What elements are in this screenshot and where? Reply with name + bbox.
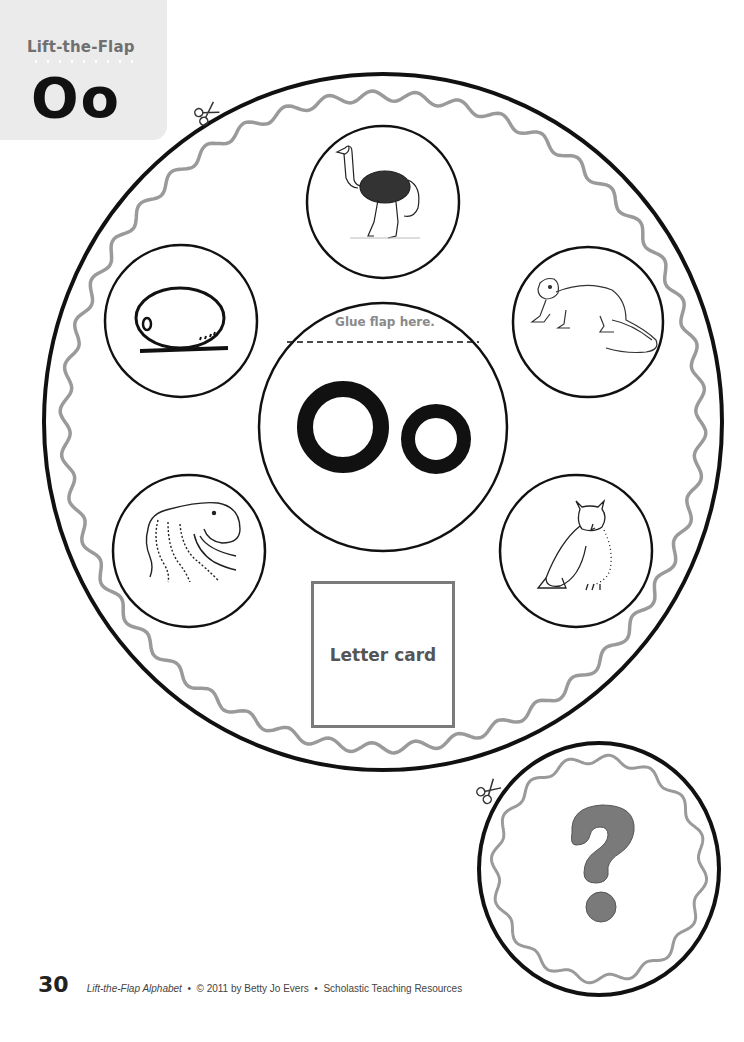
letter-card-box: Letter card — [311, 581, 455, 728]
question-flap[interactable] — [479, 743, 719, 995]
page-footer: 30 Lift-the-Flap Alphabet • © 2011 by Be… — [38, 972, 462, 997]
footer-credits: Lift-the-Flap Alphabet • © 2011 by Betty… — [87, 983, 463, 994]
picture-otter — [513, 247, 663, 397]
letter-card-label: Letter card — [330, 645, 437, 665]
book-title: Lift-the-Flap Alphabet — [87, 983, 182, 994]
picture-owl — [500, 475, 652, 627]
copyright: © 2011 by Betty Jo Evers — [197, 983, 309, 994]
picture-ostrich — [307, 126, 459, 278]
publisher: Scholastic Teaching Resources — [323, 983, 462, 994]
picture-oval — [105, 245, 257, 397]
separator: • — [314, 983, 318, 994]
picture-octopus — [113, 475, 265, 627]
cutout-artwork — [0, 0, 744, 1042]
glue-instruction: Glue flap here. — [300, 315, 470, 329]
page-number: 30 — [38, 972, 69, 997]
separator: • — [187, 983, 191, 994]
